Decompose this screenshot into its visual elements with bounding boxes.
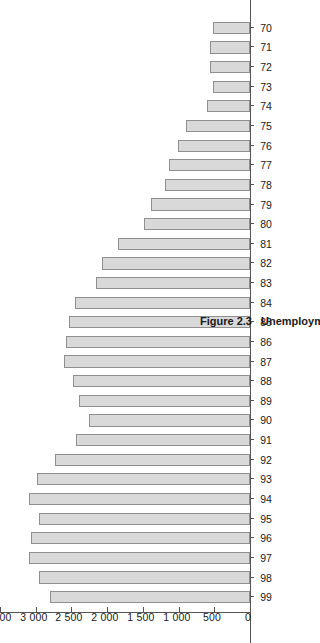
category-tick — [250, 223, 254, 224]
bar — [169, 159, 250, 171]
category-tick — [250, 105, 254, 106]
category-tick — [250, 145, 254, 146]
category-tick — [250, 478, 254, 479]
category-label: 93 — [255, 473, 277, 485]
category-label: 76 — [255, 140, 277, 152]
category-tick — [250, 66, 254, 67]
bar — [178, 140, 250, 152]
bar — [66, 336, 250, 348]
bar — [29, 552, 250, 564]
category-label: 88 — [255, 375, 277, 387]
category-tick — [250, 302, 254, 303]
category-label: 91 — [255, 434, 277, 446]
category-label: 79 — [255, 199, 277, 211]
bar — [186, 120, 250, 132]
bar — [102, 257, 250, 269]
category-tick — [250, 419, 254, 420]
category-label: 82 — [255, 257, 277, 269]
category-tick — [250, 282, 254, 283]
category-label: 73 — [255, 81, 277, 93]
bar — [210, 61, 250, 73]
category-tick — [250, 380, 254, 381]
bar — [213, 22, 250, 34]
category-tick — [250, 498, 254, 499]
bar — [75, 297, 250, 309]
bar — [165, 179, 250, 191]
category-label: 87 — [255, 356, 277, 368]
category-tick — [250, 86, 254, 87]
bar — [73, 375, 250, 387]
category-tick — [250, 262, 254, 263]
category-label: 99 — [255, 591, 277, 603]
category-tick — [250, 27, 254, 28]
category-label: 97 — [255, 552, 277, 564]
category-label: 70 — [255, 22, 277, 34]
rotated-figure-stage: 05001 0001 5002 0002 5003 0003 500 99989… — [0, 0, 310, 643]
bar — [76, 434, 250, 446]
figure-caption: Figure 2.3Unemployment in France, 1970–9… — [200, 316, 310, 328]
category-label: 77 — [255, 159, 277, 171]
bar — [50, 591, 250, 603]
category-tick — [250, 596, 254, 597]
category-label: 90 — [255, 414, 277, 426]
category-tick — [250, 125, 254, 126]
bar — [37, 473, 250, 485]
category-label: 71 — [255, 41, 277, 53]
category-tick — [250, 184, 254, 185]
category-label: 86 — [255, 336, 277, 348]
category-tick — [250, 204, 254, 205]
bar — [29, 493, 250, 505]
category-tick — [250, 243, 254, 244]
category-tick — [250, 400, 254, 401]
bar — [39, 513, 250, 525]
bar — [213, 81, 250, 93]
category-tick — [250, 439, 254, 440]
bar — [39, 571, 250, 583]
category-tick — [250, 341, 254, 342]
category-label: 80 — [255, 218, 277, 230]
bar — [31, 532, 250, 544]
value-axis-spine — [0, 612, 250, 613]
bar — [89, 414, 250, 426]
category-tick — [250, 557, 254, 558]
category-label: 96 — [255, 532, 277, 544]
figure-number: Figure 2.3 — [200, 316, 252, 328]
bar — [144, 218, 250, 230]
bar — [118, 238, 250, 250]
category-tick — [250, 577, 254, 578]
bar — [79, 395, 250, 407]
category-tick — [250, 459, 254, 460]
category-tick — [250, 518, 254, 519]
category-tick — [250, 537, 254, 538]
category-label: 95 — [255, 513, 277, 525]
category-label: 94 — [255, 493, 277, 505]
bar — [55, 454, 250, 466]
bar — [96, 277, 250, 289]
bar — [64, 356, 250, 368]
category-tick — [250, 46, 254, 47]
category-label: 81 — [255, 238, 277, 250]
bar — [207, 100, 250, 112]
category-label: 89 — [255, 395, 277, 407]
category-tick — [250, 164, 254, 165]
category-label: 98 — [255, 572, 277, 584]
category-label: 72 — [255, 61, 277, 73]
category-label: 74 — [255, 100, 277, 112]
bar — [151, 198, 250, 210]
category-label: 78 — [255, 179, 277, 191]
bar-chart: 05001 0001 5002 0002 5003 0003 500 99989… — [0, 0, 310, 643]
category-label: 92 — [255, 454, 277, 466]
figure-title: Unemployment in France, 1970–99 — [261, 316, 310, 328]
category-tick — [250, 361, 254, 362]
category-label: 75 — [255, 120, 277, 132]
category-label: 84 — [255, 297, 277, 309]
category-label: 83 — [255, 277, 277, 289]
bar — [210, 41, 250, 53]
